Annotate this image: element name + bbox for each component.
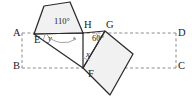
angle-label-y: y <box>48 34 52 43</box>
angle-label-x: x <box>86 50 90 59</box>
angle-arc-y <box>43 34 46 41</box>
point-label-e: E <box>34 35 40 46</box>
point-label-d: D <box>178 28 186 39</box>
point-label-h: H <box>84 20 92 31</box>
point-label-b: B <box>13 61 20 72</box>
point-label-a: A <box>13 28 21 39</box>
point-label-f: F <box>88 69 94 80</box>
point-label-c: C <box>178 61 185 72</box>
angle-arc-110-arrowhead <box>73 37 77 40</box>
angle-label-110: 110° <box>54 17 70 26</box>
geometry-diagram: A B C D E F G H 110° y 60° x <box>0 0 192 112</box>
point-label-g: G <box>106 20 114 31</box>
angle-label-60: 60° <box>92 34 104 43</box>
triangle-ehf <box>34 33 83 68</box>
right-square <box>83 31 133 95</box>
diagram-canvas <box>0 0 192 112</box>
